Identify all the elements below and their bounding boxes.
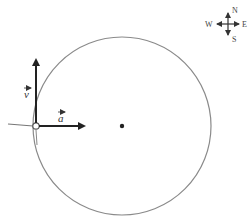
compass-east: E xyxy=(242,20,247,29)
tail-mark-left xyxy=(8,124,33,126)
svg-text:v: v xyxy=(24,88,29,100)
compass-south: S xyxy=(232,35,236,44)
center-dot xyxy=(120,124,124,128)
tail-mark-down xyxy=(36,130,37,145)
compass-west: W xyxy=(205,20,213,29)
svg-text:a: a xyxy=(58,112,64,124)
object-point xyxy=(33,123,39,129)
acceleration-label: a xyxy=(58,112,65,124)
compass-rose: N S W E xyxy=(205,6,247,44)
circular-motion-diagram: v a N S W E xyxy=(0,0,248,223)
velocity-label: v xyxy=(24,88,31,100)
compass-north: N xyxy=(232,6,238,15)
